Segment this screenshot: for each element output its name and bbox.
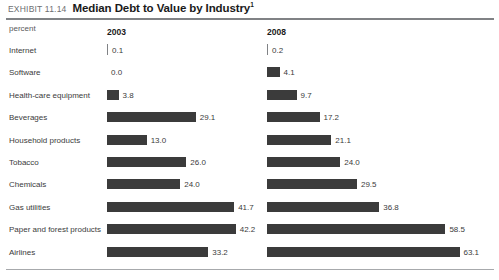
chart-rows: Internet0.10.2Software0.04.1Health-care … (0, 40, 499, 264)
bar (267, 157, 340, 167)
bar (267, 135, 331, 145)
header-divider (6, 18, 494, 20)
chart-row: Paper and forest products42.258.5 (0, 219, 499, 241)
category-label: Airlines (9, 248, 35, 257)
bar (267, 247, 460, 257)
bar (107, 179, 180, 189)
chart-row: Internet0.10.2 (0, 40, 499, 62)
bar-value-label: 3.8 (123, 91, 134, 100)
chart-row: Household products13.021.1 (0, 130, 499, 152)
bar (267, 179, 357, 189)
bar (107, 202, 234, 212)
bar-value-label: 24.0 (344, 158, 360, 167)
chart-row: Health-care equipment3.89.7 (0, 85, 499, 107)
bar (107, 224, 236, 234)
bar-value-label: 41.7 (238, 203, 254, 212)
bar (107, 135, 147, 145)
bar-value-label: 21.1 (335, 136, 351, 145)
page-title: Median Debt to Value by Industry1 (73, 2, 254, 14)
chart-row: Software0.04.1 (0, 62, 499, 84)
exhibit-chart-panel: EXHIBIT 11.14 Median Debt to Value by In… (0, 0, 499, 280)
category-label: Chemicals (9, 180, 46, 189)
bar-value-label: 29.1 (200, 113, 216, 122)
bar (107, 112, 196, 122)
bar-value-label: 13.0 (151, 136, 167, 145)
bar (107, 247, 208, 257)
bar-value-label: 63.1 (463, 248, 479, 257)
bar-value-label: 24.0 (184, 180, 200, 189)
exhibit-header: EXHIBIT 11.14 Median Debt to Value by In… (8, 2, 254, 14)
category-label: Health-care equipment (9, 91, 90, 100)
bar-value-label: 0.0 (111, 68, 122, 77)
bar-value-label: 58.5 (449, 225, 465, 234)
bar-value-label: 4.1 (284, 68, 295, 77)
footer-divider (6, 269, 494, 270)
category-label: Household products (9, 136, 80, 145)
chart-row: Beverages29.117.2 (0, 107, 499, 129)
bar (107, 157, 186, 167)
bar (267, 90, 297, 100)
chart-row: Gas utilities41.736.8 (0, 197, 499, 219)
chart-title-text: Median Debt to Value by Industry (73, 2, 251, 14)
bar-value-label: 0.1 (112, 46, 123, 55)
category-label: Paper and forest products (9, 225, 101, 234)
column-header-2003: 2003 (107, 27, 126, 37)
bar-value-label: 9.7 (301, 91, 312, 100)
exhibit-number: EXHIBIT 11.14 (8, 4, 67, 14)
chart-grid: 2003 2008 Internet0.10.2Software0.04.1He… (0, 24, 499, 264)
column-headers: 2003 2008 (0, 24, 499, 40)
bar-value-label: 0.2 (272, 46, 283, 55)
bar (267, 224, 445, 234)
bar-value-label: 26.0 (190, 158, 206, 167)
footnote-marker: 1 (250, 1, 254, 8)
bar (107, 90, 119, 100)
bar-value-label: 42.2 (240, 225, 256, 234)
chart-row: Tobacco26.024.0 (0, 152, 499, 174)
bar-value-label: 29.5 (361, 180, 377, 189)
column-header-2008: 2008 (267, 27, 286, 37)
bar (267, 44, 268, 55)
bar-value-label: 36.8 (383, 203, 399, 212)
category-label: Gas utilities (9, 203, 50, 212)
category-label: Beverages (9, 113, 47, 122)
category-label: Software (9, 68, 41, 77)
bar (267, 202, 379, 212)
bar-value-label: 33.2 (212, 248, 228, 257)
category-label: Internet (9, 46, 36, 55)
chart-row: Chemicals24.029.5 (0, 174, 499, 196)
bar (107, 44, 108, 55)
chart-row: Airlines33.263.1 (0, 242, 499, 264)
category-label: Tobacco (9, 158, 39, 167)
bar (267, 67, 280, 77)
bar-value-label: 17.2 (323, 113, 339, 122)
bar (267, 112, 320, 122)
